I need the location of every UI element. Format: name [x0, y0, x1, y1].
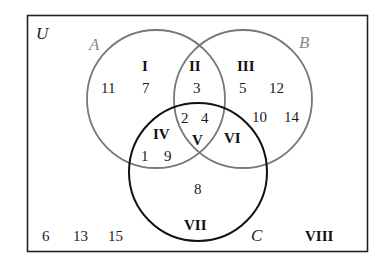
- element-6: 6: [42, 228, 50, 244]
- region-label-v: V: [192, 132, 203, 148]
- venn-diagram: U A B C I 11 7 II 3 III 5 12 10 14 IV 1 …: [0, 0, 390, 271]
- element-2: 2: [181, 110, 189, 126]
- element-3: 3: [193, 80, 201, 96]
- element-8: 8: [194, 181, 202, 197]
- element-1: 1: [141, 148, 149, 164]
- region-label-ii: II: [189, 58, 201, 74]
- set-b-label: B: [299, 33, 310, 52]
- element-7: 7: [142, 80, 150, 96]
- element-12: 12: [269, 80, 284, 96]
- set-c-label: C: [251, 226, 263, 245]
- region-label-i: I: [142, 58, 148, 74]
- element-10: 10: [252, 109, 267, 125]
- region-label-viii: VIII: [305, 228, 334, 244]
- element-4: 4: [201, 110, 209, 126]
- element-13: 13: [73, 228, 88, 244]
- element-14: 14: [284, 109, 300, 125]
- element-9: 9: [164, 148, 172, 164]
- region-label-iii: III: [237, 58, 255, 74]
- set-a-circle: [87, 30, 225, 168]
- element-11: 11: [101, 80, 115, 96]
- universe-label: U: [36, 24, 50, 43]
- region-label-vi: VI: [224, 130, 241, 146]
- region-label-iv: IV: [153, 126, 170, 142]
- set-a-label: A: [88, 35, 100, 54]
- element-5: 5: [239, 80, 247, 96]
- region-label-vii: VII: [184, 217, 207, 233]
- element-15: 15: [108, 228, 123, 244]
